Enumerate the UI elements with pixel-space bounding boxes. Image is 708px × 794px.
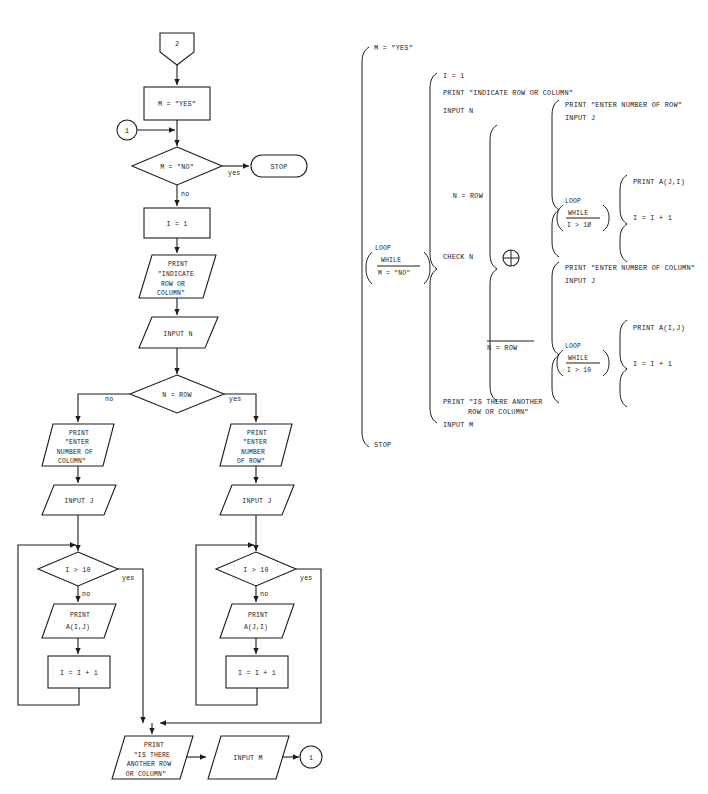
io-print-enter-column-line-2: "ENTER — [65, 439, 89, 446]
structured-l2-tail-2: ROW OR COLUMN" — [468, 408, 529, 416]
edge-label-i10-left-yes: yes — [122, 575, 134, 582]
branch-col-line-2: INPUT J — [565, 277, 595, 285]
structured-first-statement: M = "YES" — [374, 44, 413, 52]
branch-col-body-2: I = I + 1 — [633, 360, 672, 368]
io-print-aji-line-2: A(J,I) — [244, 624, 268, 631]
structured-l2-line-1: I = 1 — [443, 72, 465, 80]
brace-branch-row-body — [620, 175, 627, 262]
decision-i-gt-10-left-label: I > 10 — [65, 566, 90, 574]
branch-row-loop-condition: I > 1Ø — [567, 221, 591, 229]
io-print-indicate-line-3: ROW OR — [161, 281, 185, 288]
edge-label-mno-yes: yes — [228, 170, 240, 177]
edge-label-i10-right-yes: yes — [300, 575, 312, 582]
process-incr-i-left-label: I = I + 1 — [60, 669, 98, 677]
structured-check-n: CHECK N — [443, 253, 473, 261]
io-print-enter-row-line-4: OF ROW" — [237, 458, 265, 465]
terminator-stop-label: STOP — [271, 163, 288, 171]
figure-canvas: 2 M = "YES" 1 M = "NO" yes STOP no I = 1… — [0, 0, 708, 794]
loop1-condition: M = "NO" — [378, 270, 410, 277]
brace-level-2 — [430, 73, 437, 423]
io-print-another-line-4: OR COLUMN" — [126, 771, 166, 778]
branch-col-loop-condition: I > 10 — [567, 367, 591, 374]
io-print-indicate-line-1: PRINT — [168, 261, 188, 268]
branch-row-line-1: PRINT "ENTER NUMBER OF ROW" — [565, 101, 682, 109]
branch-col-while-keyword: WHILE — [568, 355, 588, 362]
loop1-keyword: LOOP — [375, 245, 391, 252]
edge-i10-left-yes-to-bottom — [118, 569, 143, 723]
edge-label-i10-left-no: no — [82, 591, 90, 598]
brace-branch-col — [552, 262, 559, 403]
structured-case-row-label: N = ROW — [453, 192, 484, 200]
io-input-j-left-label: INPUT J — [64, 497, 94, 505]
process-set-i-1-label: I = 1 — [166, 220, 187, 228]
io-print-enter-column-line-4: COLUMN" — [58, 458, 86, 465]
io-print-aji-line-1: PRINT — [248, 612, 268, 619]
entry-connector-label: 2 — [175, 40, 179, 48]
edge-nrow-no-to-printcol — [78, 394, 130, 422]
process-incr-i-right-label: I = I + 1 — [238, 669, 276, 677]
io-print-indicate-line-2: "INDICATE — [158, 271, 194, 278]
io-print-aij — [42, 604, 116, 638]
brace-branch-row — [552, 100, 559, 257]
io-print-aji — [220, 604, 294, 638]
io-print-another-line-3: ANOTHER ROW — [127, 761, 171, 768]
io-print-enter-column-line-1: PRINT — [69, 430, 89, 437]
io-print-enter-row-line-1: PRINT — [247, 430, 267, 437]
io-print-another-line-1: PRINT — [144, 742, 164, 749]
figure-page: 2 M = "YES" 1 M = "NO" yes STOP no I = 1… — [0, 0, 708, 794]
branch-col-body-1: PRINT A(I,J) — [633, 324, 685, 332]
decision-n-row-label: N = ROW — [162, 391, 192, 399]
io-print-indicate-line-4: COLUMN" — [157, 290, 185, 297]
branch-row-line-2: INPUT J — [565, 114, 595, 122]
decision-m-no-label: M = "NO" — [160, 163, 194, 171]
branch-row-body-1: PRINT A(J,I) — [633, 178, 685, 186]
io-input-n-label: INPUT N — [163, 330, 193, 338]
entry-connector-shape — [160, 33, 194, 65]
loop1-while-keyword: WHILE — [381, 257, 401, 264]
structured-l2-tail-3: INPUT M — [443, 421, 473, 429]
io-print-aij-line-2: A(I,J) — [66, 624, 90, 631]
edge-label-i10-right-no: no — [260, 591, 268, 598]
io-input-j-right-label: INPUT J — [242, 497, 272, 505]
branch-row-while-keyword: WHILE — [568, 210, 588, 217]
edge-label-nrow-yes: yes — [229, 396, 241, 403]
structured-last-statement: STOP — [374, 441, 391, 449]
structured-l2-line-3: INPUT N — [443, 107, 473, 115]
edge-i10-right-yes-to-bottom — [160, 569, 321, 723]
loop1-paren-left — [366, 252, 372, 284]
io-print-aij-line-1: PRINT — [70, 612, 90, 619]
process-set-m-yes-label: M = "YES" — [158, 100, 196, 108]
edge-label-nrow-no: no — [105, 396, 113, 403]
brace-level-1 — [362, 47, 369, 447]
io-print-another-line-2: "IS THERE — [134, 752, 170, 759]
io-print-enter-column-line-3: NUMBER OF — [57, 449, 93, 456]
structured-l2-tail-1: PRINT "IS THERE ANOTHER — [443, 398, 543, 406]
io-input-m-label: INPUT M — [233, 754, 263, 762]
flowchart: 2 M = "YES" 1 M = "NO" yes STOP no I = 1… — [18, 33, 322, 779]
io-print-enter-row-line-3: NUMBER — [241, 449, 265, 456]
brace-level-3 — [490, 125, 497, 401]
branch-row-paren-right — [603, 205, 609, 231]
loop-connector-in-label: 1 — [125, 127, 129, 135]
structured-l2-line-2: PRINT "INDICATE ROW OR COLUMN" — [443, 89, 573, 97]
branch-col-line-1: PRINT "ENTER NUMBER OF COLUMN" — [565, 264, 695, 272]
branch-col-loop-keyword: LOOP — [565, 343, 581, 350]
branch-row-loop-keyword: LOOP — [565, 198, 581, 205]
loop1-paren-right — [424, 252, 430, 284]
branch-col-paren-right — [603, 350, 609, 376]
brace-branch-col-body — [620, 320, 627, 407]
decision-i-gt-10-right-label: I > 10 — [243, 566, 268, 574]
branch-row-body-2: I = I + 1 — [633, 214, 672, 222]
exit-connector-label: 1 — [309, 754, 313, 762]
structured-notation: M = "YES" LOOP WHILE M = "NO" STOP I = 1… — [362, 44, 695, 449]
edge-label-mno-no: no — [181, 191, 189, 198]
structured-case-notrow-label: N = ROW — [487, 344, 518, 352]
io-print-enter-row-line-2: "ENTER — [243, 439, 267, 446]
